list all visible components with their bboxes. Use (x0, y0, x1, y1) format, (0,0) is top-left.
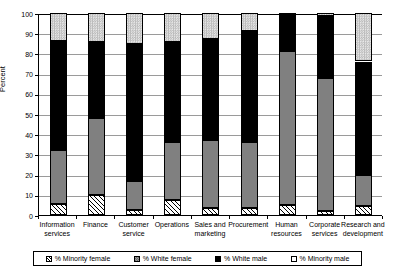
y-tick-label: 70 (9, 71, 33, 78)
x-tick-mark (191, 216, 192, 219)
y-tick-label: 100 (9, 11, 33, 18)
bar-segment-minority-male[interactable] (317, 13, 334, 16)
bar-segment-white-female[interactable] (241, 142, 258, 208)
y-tick-label: 60 (9, 91, 33, 98)
y-tick-mark (35, 115, 38, 116)
plot-area (38, 14, 382, 216)
bar-segment-white-female[interactable] (317, 78, 334, 211)
bar-slot (345, 14, 383, 215)
x-tick-mark (382, 216, 383, 219)
bar-segment-minority-male[interactable] (50, 13, 67, 41)
y-tick-label: 90 (9, 31, 33, 38)
bar-segment-minority-female[interactable] (317, 211, 334, 215)
x-tick-label-line2: marketing (188, 230, 232, 239)
stacked-bar-chart: Percent % Minority female% White female%… (0, 0, 395, 272)
bar-segment-minority-female[interactable] (126, 210, 143, 215)
x-tick-mark (267, 216, 268, 219)
y-tick-mark (35, 95, 38, 96)
bar-segment-minority-male[interactable] (355, 13, 372, 61)
bar-slot (192, 14, 230, 215)
stacked-bar[interactable] (50, 14, 67, 215)
bar-slot (115, 14, 153, 215)
stacked-bar[interactable] (241, 14, 258, 215)
bar-segment-minority-male[interactable] (126, 13, 143, 44)
bar-segment-white-female[interactable] (50, 150, 67, 204)
legend-item[interactable]: % Minority male (291, 255, 350, 262)
bar-segment-white-male[interactable] (355, 62, 372, 175)
legend-swatch-minority-female-icon (46, 256, 52, 262)
legend-item[interactable]: % White male (215, 255, 267, 262)
y-tick-mark (35, 176, 38, 177)
legend-label: % White male (224, 255, 267, 262)
stacked-bar[interactable] (202, 14, 219, 215)
bar-segment-white-female[interactable] (88, 118, 105, 195)
x-tick-mark (38, 216, 39, 219)
x-tick-mark (153, 216, 154, 219)
x-tick-mark (114, 216, 115, 219)
y-tick-mark (35, 155, 38, 156)
bar-segment-white-male[interactable] (88, 42, 105, 118)
stacked-bar[interactable] (279, 14, 296, 215)
bar-segment-white-male[interactable] (126, 44, 143, 180)
bar-segment-white-female[interactable] (279, 51, 296, 205)
stacked-bar[interactable] (88, 14, 105, 215)
legend-item[interactable]: % Minority female (46, 255, 111, 262)
bar-slot (268, 14, 306, 215)
bar-slot (154, 14, 192, 215)
bar-segment-white-female[interactable] (126, 181, 143, 210)
bar-slot (77, 14, 115, 215)
bar-segment-minority-female[interactable] (202, 208, 219, 215)
x-tick-mark (344, 216, 345, 219)
stacked-bar[interactable] (164, 14, 181, 215)
x-tick-label-line2: service (111, 230, 155, 239)
y-tick-mark (35, 54, 38, 55)
legend-label: % White female (143, 255, 192, 262)
bar-segment-minority-male[interactable] (164, 13, 181, 42)
y-axis-title: Percent (0, 66, 7, 92)
stacked-bar[interactable] (355, 14, 372, 215)
bar-segment-minority-female[interactable] (164, 200, 181, 215)
bar-segment-minority-female[interactable] (88, 195, 105, 215)
bar-segment-minority-female[interactable] (355, 206, 372, 215)
bar-segment-white-male[interactable] (317, 16, 334, 78)
y-tick-mark (35, 14, 38, 15)
x-tick-label-line2: development (341, 230, 385, 239)
x-tick-mark (229, 216, 230, 219)
y-tick-mark (35, 135, 38, 136)
bar-segment-minority-female[interactable] (241, 208, 258, 215)
bar-segment-minority-female[interactable] (50, 204, 67, 215)
bar-segment-white-male[interactable] (50, 41, 67, 150)
bar-segment-white-female[interactable] (355, 175, 372, 206)
y-tick-mark (35, 75, 38, 76)
bar-segment-white-female[interactable] (164, 142, 181, 200)
legend-swatch-white-male-icon (215, 256, 221, 262)
y-tick-mark (35, 196, 38, 197)
y-tick-label: 80 (9, 51, 33, 58)
bar-slot (39, 14, 77, 215)
stacked-bar[interactable] (126, 14, 143, 215)
bar-segment-white-female[interactable] (202, 140, 219, 208)
y-tick-label: 30 (9, 152, 33, 159)
x-tick-mark (306, 216, 307, 219)
y-tick-label: 0 (9, 213, 33, 220)
bar-segment-minority-male[interactable] (88, 13, 105, 42)
legend-swatch-white-female-icon (134, 256, 140, 262)
bar-segment-white-male[interactable] (241, 31, 258, 142)
bar-slot (307, 14, 345, 215)
x-tick-label-line2: services (35, 230, 79, 239)
y-tick-label: 20 (9, 172, 33, 179)
legend-item[interactable]: % White female (134, 255, 192, 262)
bar-segment-white-male[interactable] (202, 39, 219, 140)
bar-segment-minority-male[interactable] (202, 13, 219, 39)
bar-segment-white-male[interactable] (279, 13, 296, 51)
legend-swatch-minority-male-icon (291, 256, 297, 262)
y-tick-label: 40 (9, 132, 33, 139)
x-tick-label: Research anddevelopment (341, 221, 385, 238)
bar-segment-minority-female[interactable] (279, 205, 296, 215)
x-tick-mark (76, 216, 77, 219)
y-tick-label: 50 (9, 112, 33, 119)
bar-segment-white-male[interactable] (164, 42, 181, 142)
legend-label: % Minority female (55, 255, 111, 262)
bar-segment-minority-male[interactable] (241, 13, 258, 31)
stacked-bar[interactable] (317, 14, 334, 215)
